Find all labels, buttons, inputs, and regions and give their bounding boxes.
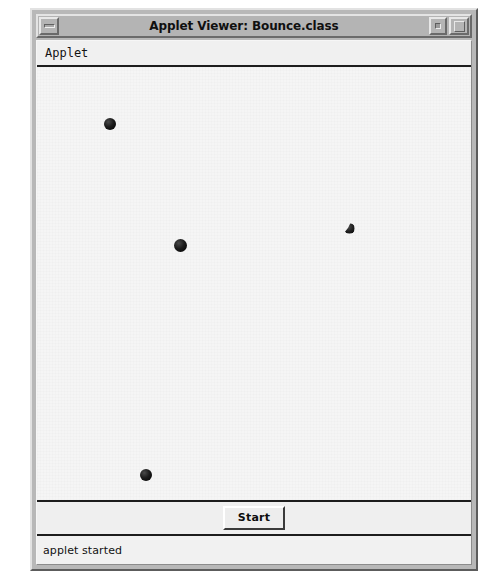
window-client-area: Applet Start applet started <box>36 40 472 565</box>
status-bar: applet started <box>37 536 471 564</box>
bouncing-ball <box>344 223 355 234</box>
menu-item-applet[interactable]: Applet <box>44 45 94 62</box>
window-title: Applet Viewer: Bounce.class <box>59 19 429 33</box>
restore-icon <box>435 23 441 29</box>
minimize-icon <box>44 24 55 28</box>
status-message: applet started <box>43 544 122 557</box>
applet-canvas[interactable] <box>37 67 471 500</box>
screenshot-root: Applet Viewer: Bounce.class Applet Start <box>0 0 487 584</box>
maximize-button[interactable] <box>449 17 469 35</box>
applet-button-panel: Start <box>37 502 471 536</box>
restore-button[interactable] <box>429 17 447 35</box>
title-bar[interactable]: Applet Viewer: Bounce.class <box>36 14 472 38</box>
bouncing-ball <box>140 469 152 481</box>
applet-canvas-container <box>37 67 471 502</box>
maximize-icon <box>454 21 465 32</box>
bouncing-ball <box>104 118 116 130</box>
minimize-button[interactable] <box>39 17 59 35</box>
menu-bar: Applet <box>37 41 471 67</box>
applet-viewer-window: Applet Viewer: Bounce.class Applet Start <box>30 8 478 571</box>
bouncing-ball <box>174 239 187 252</box>
start-button[interactable]: Start <box>223 506 285 530</box>
